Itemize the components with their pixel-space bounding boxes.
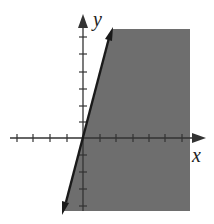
y-axis-arrow-icon [78, 14, 88, 28]
x-axis-label: x [191, 144, 201, 166]
line-arrow-top-icon [105, 27, 113, 41]
inequality-graph: y x [0, 0, 214, 224]
x-axis-arrow-icon [192, 133, 206, 143]
y-axis-label: y [91, 8, 102, 31]
shaded-region [63, 29, 190, 211]
